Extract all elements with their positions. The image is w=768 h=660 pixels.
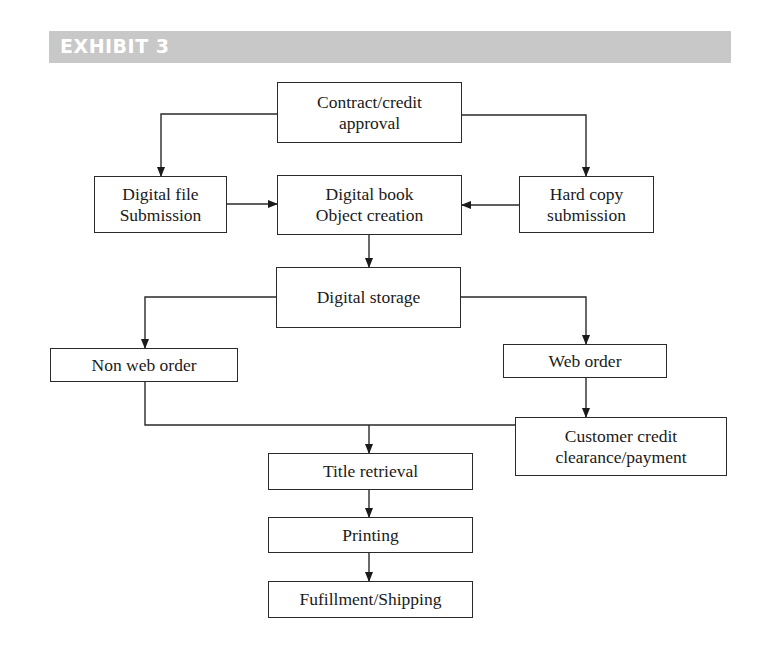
node-label: Fufillment/Shipping xyxy=(300,589,442,610)
node-label: Web order xyxy=(549,351,622,372)
node-digital-file-submission: Digital file Submission xyxy=(94,176,227,233)
line-non-web-merge xyxy=(145,382,515,425)
node-label: submission xyxy=(547,205,626,226)
node-web-order: Web order xyxy=(503,344,667,378)
arrow-contract-to-digital-file xyxy=(161,114,277,176)
node-digital-storage: Digital storage xyxy=(276,267,461,328)
node-non-web-order: Non web order xyxy=(50,348,238,382)
node-label: clearance/payment xyxy=(555,447,686,468)
node-digital-book-object-creation: Digital book Object creation xyxy=(277,175,462,235)
arrow-contract-to-hard-copy xyxy=(462,115,586,176)
arrow-storage-to-web xyxy=(461,297,586,344)
node-label: Contract/credit xyxy=(317,92,422,113)
arrow-storage-to-non-web xyxy=(145,297,276,348)
node-fulfillment-shipping: Fufillment/Shipping xyxy=(268,581,473,618)
node-label: Non web order xyxy=(92,355,197,376)
node-label: Submission xyxy=(120,205,202,226)
node-label: Printing xyxy=(342,525,398,546)
node-hard-copy-submission: Hard copy submission xyxy=(519,176,654,233)
node-label: Digital file xyxy=(122,184,198,205)
node-label: Digital book xyxy=(326,184,414,205)
node-contract-credit-approval: Contract/credit approval xyxy=(277,82,462,143)
node-label: Object creation xyxy=(316,205,423,226)
node-label: Digital storage xyxy=(317,287,421,308)
node-customer-credit-clearance: Customer credit clearance/payment xyxy=(515,417,727,476)
node-label: Title retrieval xyxy=(323,461,418,482)
node-label: approval xyxy=(339,113,400,134)
node-title-retrieval: Title retrieval xyxy=(268,453,473,490)
node-printing: Printing xyxy=(268,517,473,553)
node-label: Hard copy xyxy=(550,184,623,205)
node-label: Customer credit xyxy=(565,426,677,447)
